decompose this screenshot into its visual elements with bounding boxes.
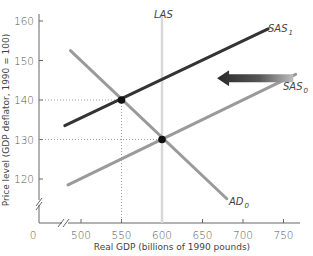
las-label: LAS [154,9,173,20]
sas0-label: SAS0 [283,81,309,95]
equilibrium-point [118,96,126,104]
x-tick-label: 600 [152,229,172,241]
sas0-curve [68,74,296,185]
ad0-label: AD0 [228,196,250,210]
x-axis-title: Real GDP (billions of 1990 pounds) [94,242,250,252]
y-tick-label: 160 [14,15,34,27]
x-tick-label: 750 [273,229,293,241]
y-tick-label: 150 [14,55,34,67]
ad0-curve [70,51,226,199]
curves [65,14,296,223]
y-axis-title: Price level (GDP deflator, 1990 = 100) [1,34,11,207]
curve-labels: LASSAS1SAS0AD0 [154,9,309,210]
x-tick-label: 500 [71,229,91,241]
equilibrium-point [158,136,166,144]
y-tick-label: 140 [14,94,34,106]
y-tick-label: 130 [14,134,34,146]
sas1-label: SAS1 [268,23,293,37]
chart-canvas: 1201301401501605005506006507007500Real G… [0,0,313,256]
x-tick-label: 650 [192,229,212,241]
shift-left-arrow-icon [217,70,293,86]
y-tick-label: 120 [14,173,34,185]
axes: 1201301401501605005506006507007500Real G… [1,14,300,252]
x-tick-label: 700 [233,229,253,241]
x-tick-label: 550 [111,229,131,241]
origin-label: 0 [30,229,37,241]
